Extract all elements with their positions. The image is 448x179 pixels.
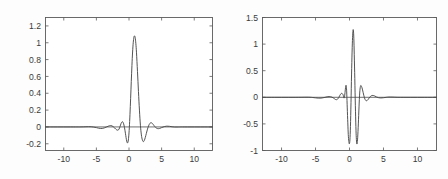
y-tick-label: 0.6 <box>29 72 41 82</box>
y-tick-label: 0 <box>36 122 41 132</box>
y-tick-label: 0.2 <box>29 105 41 115</box>
x-tick-label: -10 <box>275 154 288 164</box>
y-tick-label: 1.2 <box>29 21 41 31</box>
x-tick-label: 10 <box>189 154 199 164</box>
y-tick-label: -1 <box>250 146 258 156</box>
plot-panel-left: -0.200.20.40.60.811.2 -10-50510 <box>0 0 224 179</box>
x-tick-label: -10 <box>58 154 71 164</box>
x-tick-label: -5 <box>312 154 320 164</box>
y-tick-label: 0.5 <box>246 66 258 76</box>
axis-frame-right <box>263 18 437 151</box>
y-axis-labels-right: -1-0.500.511.5 <box>243 13 258 156</box>
y-tick-label: -0.5 <box>243 119 258 129</box>
y-tick-label: 1.5 <box>246 13 258 23</box>
y-tick-label: 0.8 <box>29 55 41 65</box>
x-axis-labels-right: -10-50510 <box>275 154 422 164</box>
x-tick-label: 5 <box>159 154 164 164</box>
x-tick-label: 0 <box>127 154 132 164</box>
plot-left-svg: -0.200.20.40.60.811.2 -10-50510 <box>0 0 224 179</box>
y-tick-label: 1 <box>253 39 258 49</box>
x-axis-labels-left: -10-50510 <box>58 154 200 164</box>
x-tick-label: 5 <box>381 154 386 164</box>
x-tick-label: -5 <box>93 154 101 164</box>
plot-right-svg: -1-0.500.511.5 -10-50510 <box>224 0 448 179</box>
x-tick-label: 10 <box>413 154 423 164</box>
plot-panel-right: -1-0.500.511.5 -10-50510 <box>224 0 448 179</box>
y-tick-label: -0.2 <box>26 139 41 149</box>
y-tick-label: 0.4 <box>29 88 41 98</box>
wavelet-figure: -0.200.20.40.60.811.2 -10-50510 -1-0.500… <box>0 0 448 179</box>
y-tick-label: 1 <box>36 38 41 48</box>
y-tick-label: 0 <box>253 92 258 102</box>
x-tick-label: 0 <box>347 154 352 164</box>
y-axis-labels-left: -0.200.20.40.60.811.2 <box>26 21 41 149</box>
